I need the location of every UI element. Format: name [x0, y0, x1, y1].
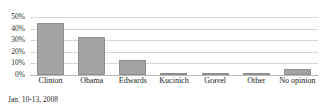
y-axis-tick-label: 40%	[11, 25, 25, 33]
bar-slot	[71, 17, 112, 75]
bar-slot	[236, 17, 277, 75]
x-axis-tick-label-other: Other	[236, 76, 277, 86]
bar-no-opinion	[284, 69, 311, 75]
y-axis: 0%10%20%30%40%50%	[0, 17, 28, 75]
bar-series	[30, 17, 318, 75]
x-axis-tick-label-gravel: Gravel	[195, 76, 236, 86]
bar-other	[243, 73, 270, 75]
x-axis-tick-label-edwards: Edwards	[112, 76, 153, 86]
x-axis-tick-label-no-opinion: No opinion	[277, 76, 318, 86]
bar-slot	[277, 17, 318, 75]
y-axis-tick-label: 30%	[11, 36, 25, 44]
bar-gravel	[202, 73, 229, 75]
y-axis-tick-label: 10%	[11, 60, 25, 68]
x-axis-tick-label-clinton: Clinton	[30, 76, 71, 86]
y-axis-tick-label: 20%	[11, 48, 25, 56]
bar-chart-figure: 0%10%20%30%40%50% ClintonObamaEdwardsKuc…	[0, 0, 321, 112]
bar-slot	[153, 17, 194, 75]
x-axis: ClintonObamaEdwardsKucinichGravelOtherNo…	[30, 76, 318, 86]
x-axis-tick-label-obama: Obama	[71, 76, 112, 86]
bar-slot	[112, 17, 153, 75]
bar-clinton	[37, 23, 64, 75]
bar-edwards	[119, 60, 146, 75]
chart-caption: Jan. 10-13, 2008	[8, 95, 58, 105]
bar-slot	[195, 17, 236, 75]
bar-obama	[78, 37, 105, 75]
y-axis-tick-label: 50%	[11, 13, 25, 21]
y-axis-tick-label: 0%	[15, 71, 25, 79]
bar-slot	[30, 17, 71, 75]
x-axis-tick-label-kucinich: Kucinich	[153, 76, 194, 86]
bar-kucinich	[160, 73, 187, 75]
